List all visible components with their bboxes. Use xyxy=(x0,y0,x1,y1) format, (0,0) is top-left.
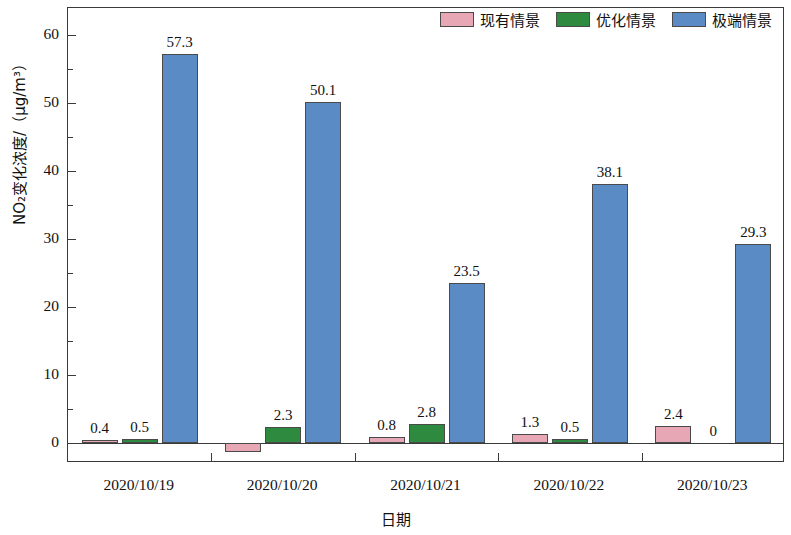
bar-value-label: 2.8 xyxy=(397,404,457,421)
legend-item-extreme-scenario: 极端情景 xyxy=(672,9,772,30)
y-tick-minor xyxy=(68,273,73,274)
legend-swatch-optimized-scenario xyxy=(556,12,590,27)
y-tick-major xyxy=(68,35,76,36)
y-tick-major xyxy=(68,239,76,240)
zero-baseline xyxy=(68,443,783,444)
y-tick-minor xyxy=(68,205,73,206)
y-tick-minor xyxy=(68,341,73,342)
no2-change-concentration-bar-chart: 现有情景 优化情景 极端情景 NO₂变化浓度/（μg/m³） 0.40.557.… xyxy=(0,0,791,535)
bar-current-scenario xyxy=(369,437,405,442)
legend-item-current-scenario: 现有情景 xyxy=(440,9,540,30)
chart-legend: 现有情景 优化情景 极端情景 xyxy=(440,8,772,30)
legend-label-extreme-scenario: 极端情景 xyxy=(712,9,772,30)
x-axis-title: 日期 xyxy=(0,508,791,529)
x-tick-mark xyxy=(642,453,643,461)
x-tick-label: 2020/10/19 xyxy=(69,476,209,494)
y-tick-label: 40 xyxy=(23,161,59,179)
bar-extreme-scenario xyxy=(592,184,628,443)
bar-value-label: 0 xyxy=(683,423,743,440)
bar-optimized-scenario xyxy=(265,427,301,443)
y-tick-major xyxy=(68,103,76,104)
bar-optimized-scenario xyxy=(122,439,158,442)
bar-value-label: 2.4 xyxy=(643,406,703,423)
bar-value-label: 0.5 xyxy=(540,419,600,436)
x-tick-label: 2020/10/23 xyxy=(642,476,782,494)
bar-value-label: 57.3 xyxy=(150,34,210,51)
legend-item-optimized-scenario: 优化情景 xyxy=(556,9,656,30)
x-tick-label: 2020/10/21 xyxy=(356,476,496,494)
bar-value-label: 29.3 xyxy=(723,224,783,241)
x-tick-label: 2020/10/20 xyxy=(212,476,352,494)
bar-extreme-scenario xyxy=(162,54,198,443)
legend-swatch-extreme-scenario xyxy=(672,12,706,27)
bar-optimized-scenario xyxy=(409,424,445,443)
legend-label-optimized-scenario: 优化情景 xyxy=(596,9,656,30)
bar-value-label: 50.1 xyxy=(293,82,353,99)
legend-label-current-scenario: 现有情景 xyxy=(480,9,540,30)
y-axis-title: NO₂变化浓度/（μg/m³） xyxy=(8,26,29,256)
y-tick-label: 20 xyxy=(23,297,59,315)
x-tick-mark xyxy=(498,453,499,461)
plot-area: 0.40.557.32.350.10.82.823.51.30.538.12.4… xyxy=(67,7,784,462)
y-tick-minor xyxy=(68,137,73,138)
bar-extreme-scenario xyxy=(735,244,771,443)
bar-current-scenario xyxy=(225,443,261,453)
bar-current-scenario xyxy=(82,440,118,443)
y-tick-minor xyxy=(68,409,73,410)
y-tick-major xyxy=(68,307,76,308)
bar-value-label: 38.1 xyxy=(580,164,640,181)
bar-value-label: 2.3 xyxy=(253,407,313,424)
bar-value-label: 23.5 xyxy=(437,263,497,280)
x-tick-label: 2020/10/22 xyxy=(499,476,639,494)
bar-extreme-scenario xyxy=(449,283,485,443)
y-tick-label: 60 xyxy=(23,25,59,43)
y-tick-label: 0 xyxy=(23,433,59,451)
y-tick-major xyxy=(68,443,76,444)
bar-value-label: 0.5 xyxy=(110,419,170,436)
y-tick-label: 50 xyxy=(23,93,59,111)
x-tick-mark xyxy=(355,453,356,461)
x-tick-mark xyxy=(211,453,212,461)
y-tick-major xyxy=(68,375,76,376)
y-tick-label: 30 xyxy=(23,229,59,247)
legend-swatch-current-scenario xyxy=(440,12,474,27)
bar-optimized-scenario xyxy=(552,439,588,442)
y-tick-label: 10 xyxy=(23,365,59,383)
bar-extreme-scenario xyxy=(305,102,341,442)
y-tick-minor xyxy=(68,69,73,70)
y-tick-major xyxy=(68,171,76,172)
